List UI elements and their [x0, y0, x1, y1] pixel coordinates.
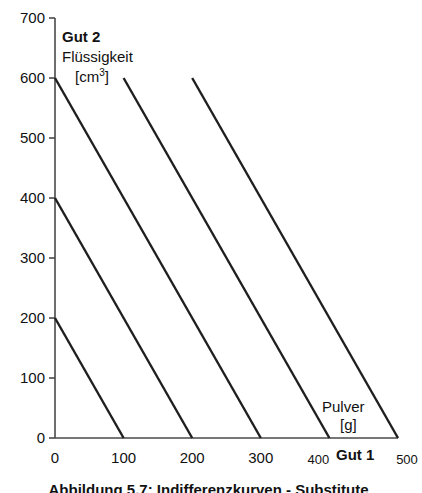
x-tick-label: 100 [99, 449, 149, 466]
y-tick-label: 600 [0, 69, 45, 86]
y-tick-label: 100 [0, 369, 45, 386]
y-tick-label: 300 [0, 249, 45, 266]
x-axis-name-label: Gut 1 [336, 446, 374, 463]
x-tick-label: 300 [236, 449, 286, 466]
figure-caption: Abbildung 5.7: Indifferenzkurven - Subst… [0, 481, 417, 493]
y-tick-label: 0 [0, 429, 45, 446]
y-unit-prefix: [cm [75, 68, 99, 85]
indifference-curves [55, 78, 398, 438]
y-unit-suffix: ] [105, 68, 109, 85]
indifference-curve [124, 78, 330, 438]
x-tick-label: 500 [387, 452, 422, 467]
y-tick-label: 500 [0, 129, 45, 146]
y-tick-label: 200 [0, 309, 45, 326]
indifference-curve [55, 198, 192, 438]
x-tick-label: 0 [30, 449, 80, 466]
y-tick-label: 400 [0, 189, 45, 206]
y-axis-name-label: Gut 2 [62, 28, 100, 45]
axis-ticks [49, 18, 55, 438]
indifference-curve [55, 78, 261, 438]
indifference-curve [55, 318, 124, 438]
y-tick-label: 700 [0, 9, 45, 26]
indifference-curve [192, 78, 398, 438]
x-tick-label: 200 [167, 449, 217, 466]
x-axis-unit-label: [g] [340, 416, 357, 433]
y-axis-unit-label: [cm3] [75, 68, 109, 85]
y-axis-quantity-label: Flüssigkeit [62, 48, 133, 65]
x-axis-quantity-label: Pulver [322, 398, 365, 415]
x-tick-label: 400 [298, 452, 338, 467]
